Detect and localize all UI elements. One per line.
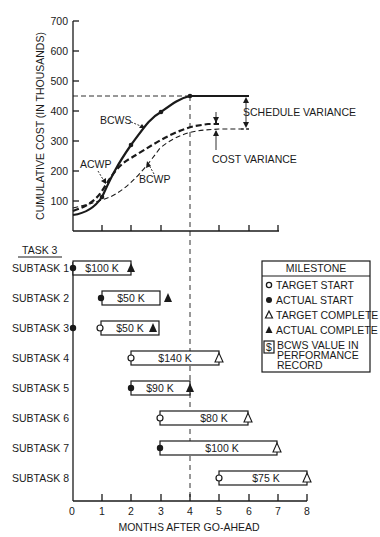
svg-text:$100 K: $100 K	[205, 442, 238, 454]
svg-text:TARGET COMPLETE: TARGET COMPLETE	[276, 309, 378, 321]
legend-title: MILESTONE	[286, 262, 347, 274]
x-axis-label: MONTHS AFTER GO-AHEAD	[118, 521, 260, 533]
y-tick-label: 700	[50, 15, 68, 27]
svg-text:TARGET START: TARGET START	[276, 279, 355, 291]
bcwp-label: BCWP	[139, 173, 171, 185]
svg-text:$50 K: $50 K	[116, 322, 143, 334]
svg-text:$90 K: $90 K	[146, 382, 173, 394]
actual-start-icon	[157, 445, 163, 451]
x-ticks-bottom	[102, 494, 307, 501]
svg-text:ACTUAL COMPLETE: ACTUAL COMPLETE	[276, 324, 378, 336]
cost-variance-label: COST VARIANCE	[212, 153, 297, 165]
svg-text:SUBTASK 5: SUBTASK 5	[12, 382, 69, 394]
cost-variance-marker	[213, 112, 219, 150]
earned-value-figure: CUMULATIVE COST (IN THOUSANDS) 100 200 3…	[0, 0, 380, 537]
actual-start-icon	[128, 385, 134, 391]
subtask-row-4: SUBTASK 4 $140 K	[12, 351, 223, 365]
y-tick-label: 500	[50, 75, 68, 87]
svg-text:SUBTASK 8: SUBTASK 8	[12, 472, 69, 484]
y-tick-label: 300	[50, 135, 68, 147]
actual-start-icon	[266, 297, 272, 303]
svg-text:SUBTASK 4: SUBTASK 4	[12, 352, 69, 364]
y-ticks: 100 200 300 400 500 600 700	[50, 15, 79, 207]
subtask-row-6: SUBTASK 6 $80 K	[12, 411, 252, 425]
gantt-chart: TASK 3 0 1 2 3 4 5 6 7 8 MONTHS AFTER GO…	[12, 244, 378, 533]
svg-text:$80 K: $80 K	[200, 412, 227, 424]
svg-text:$75 K: $75 K	[252, 472, 279, 484]
subtask-row-5: SUBTASK 5 $90 K	[12, 381, 194, 395]
svg-text:3: 3	[158, 505, 164, 517]
svg-text:5: 5	[216, 505, 222, 517]
y-tick-label: 100	[50, 195, 68, 207]
actual-start-icon	[70, 265, 76, 271]
svg-text:$: $	[266, 341, 272, 353]
svg-text:SUBTASK 2: SUBTASK 2	[12, 292, 69, 304]
svg-text:0: 0	[69, 505, 75, 517]
schedule-variance-label: SCHEDULE VARIANCE	[243, 106, 356, 118]
subtask-row-2: SUBTASK 2 $50 K	[12, 291, 172, 305]
actual-start-icon	[98, 295, 104, 301]
svg-text:6: 6	[246, 505, 252, 517]
target-start-icon	[266, 282, 271, 287]
svg-text:7: 7	[275, 505, 281, 517]
y-tick-label: 200	[50, 165, 68, 177]
subtask-row-7: SUBTASK 7 $100 K	[12, 441, 281, 455]
cost-chart: CUMULATIVE COST (IN THOUSANDS) 100 200 3…	[34, 15, 356, 501]
acwp-label: ACWP	[80, 158, 112, 170]
actual-complete-icon	[164, 293, 172, 302]
svg-text:4: 4	[187, 505, 193, 517]
svg-text:$50 K: $50 K	[117, 292, 144, 304]
target-start-icon	[97, 325, 103, 331]
target-start-icon	[128, 355, 134, 361]
svg-text:8: 8	[304, 505, 310, 517]
subtask-row-8: SUBTASK 8 $75 K	[12, 471, 311, 485]
task-title: TASK 3	[22, 244, 58, 256]
subtask-row-1: SUBTASK 1 $100 K	[12, 261, 135, 275]
actual-start-icon	[70, 325, 76, 331]
target-start-icon	[157, 415, 163, 421]
bcws-label: BCWS	[100, 114, 132, 126]
svg-text:SUBTASK 7: SUBTASK 7	[12, 442, 69, 454]
y-axis-label: CUMULATIVE COST (IN THOUSANDS)	[34, 32, 46, 220]
y-tick-label: 600	[50, 45, 68, 57]
target-start-icon	[216, 475, 222, 481]
subtask-row-3: SUBTASK 3 $50 K	[12, 321, 159, 335]
svg-text:$140 K: $140 K	[158, 352, 191, 364]
svg-text:SUBTASK 3: SUBTASK 3	[12, 322, 69, 334]
svg-text:1: 1	[99, 505, 105, 517]
milestone-legend: MILESTONE TARGET START ACTUAL START TARG…	[262, 261, 378, 372]
svg-text:RECORD: RECORD	[277, 359, 323, 371]
x-tick-labels: 0 1 2 3 4 5 6 7 8	[69, 505, 310, 517]
svg-text:ACTUAL START: ACTUAL START	[276, 294, 354, 306]
svg-text:$100 K: $100 K	[85, 262, 118, 274]
y-tick-label: 400	[50, 105, 68, 117]
svg-text:SUBTASK 6: SUBTASK 6	[12, 412, 69, 424]
svg-text:SUBTASK 1: SUBTASK 1	[12, 262, 69, 274]
svg-text:2: 2	[128, 505, 134, 517]
